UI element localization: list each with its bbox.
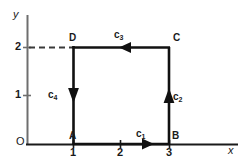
x-tick-label-1: 1 [70,147,76,158]
edge-label-c1-sub: 1 [142,133,146,140]
edge-label-c3-sub: 3 [120,34,124,41]
arrowhead-c3-left [119,42,131,53]
arrowhead-c1-right [142,139,154,150]
y-axis-label: y [13,9,19,20]
vertex-label-C: C [173,33,180,43]
diagram-canvas [0,0,248,159]
origin-label: O [16,136,25,147]
y-tick-label-2: 2 [15,41,21,52]
edge-label-c1: c1 [136,129,145,139]
vertex-label-A: A [69,131,76,141]
x-tick-label-2: 2 [117,147,123,158]
arrowhead-c4-down [68,88,79,103]
edge-label-c2-sub: 2 [179,96,183,103]
edge-label-c4-sub: 4 [54,94,58,101]
y-tick-label-1: 1 [15,89,21,100]
vertex-label-B: B [172,131,179,141]
edge-label-c3-base: c [114,29,120,40]
edge-label-c2: c2 [173,92,182,102]
vertex-label-D: D [69,33,76,43]
edge-label-c1-base: c [136,128,142,139]
edge-label-c4-base: c [48,89,54,100]
edge-label-c2-base: c [173,91,179,102]
coordinate-diagram: y x O 2 1 1 2 3 A B C D c1 c2 c3 c4 [0,0,248,159]
edge-label-c4: c4 [48,90,57,100]
x-axis-label: x [228,145,234,156]
edge-label-c3: c3 [114,30,123,40]
x-tick-label-3: 3 [166,147,172,158]
